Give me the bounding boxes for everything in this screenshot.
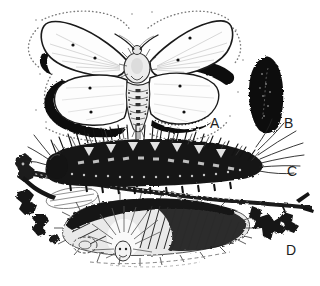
- wing-spot: [89, 110, 92, 113]
- engraving-figure: A B C D: [0, 0, 320, 286]
- moth-head: [133, 46, 142, 55]
- label-d: D: [286, 242, 296, 258]
- moth-lifecycle-illustration: A B C D: [0, 0, 320, 286]
- pupa-face: [115, 241, 131, 261]
- left-hindwing: [55, 75, 128, 125]
- wing-spot: [182, 110, 185, 113]
- right-leaf-cluster: [249, 205, 299, 240]
- pupa-figure: [249, 57, 283, 134]
- label-a: A: [210, 115, 220, 131]
- caterpillar-head: [46, 153, 68, 179]
- wing-spot: [188, 36, 191, 39]
- left-forewing: [41, 22, 128, 77]
- wing-spot: [176, 58, 179, 61]
- wing-spot: [71, 43, 74, 46]
- wing-spot: [93, 56, 96, 59]
- tail-tuft: [132, 130, 144, 139]
- wing-spot: [178, 84, 181, 87]
- branch-tip-fork: [296, 192, 310, 203]
- right-hindwing: [149, 73, 219, 125]
- label-b: B: [284, 115, 293, 131]
- wing-spot: [88, 86, 91, 89]
- label-c: C: [287, 163, 297, 179]
